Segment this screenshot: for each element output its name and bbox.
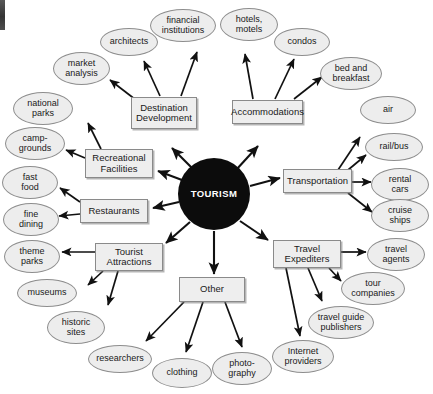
- leaf-node-researchers[interactable]: researchers: [88, 345, 152, 373]
- leaf-node-historic-sites[interactable]: historicsites: [47, 311, 105, 344]
- cruise-ships-label-line1: cruise: [388, 205, 412, 215]
- arrow-transportation-to-air: [338, 137, 360, 170]
- leaf-node-air[interactable]: air: [360, 96, 416, 124]
- clothing-label-line1: clothing: [166, 367, 197, 377]
- arrow-hub-to-tourist-attractions: [166, 222, 190, 243]
- arrow-other-to-clothing: [186, 302, 203, 352]
- leaf-node-photography[interactable]: photo-graphy: [212, 352, 272, 385]
- photography-label-line1: photo-: [229, 358, 255, 368]
- leaf-node-financial-institutions[interactable]: financialinstitutions: [150, 9, 216, 42]
- hotels-motels-label-line2: motels: [236, 24, 263, 34]
- financial-institutions-label-line2: institutions: [162, 25, 205, 35]
- hub-label: TOURISM: [191, 189, 237, 199]
- category-box-restaurants[interactable]: Restaurants: [80, 199, 148, 223]
- leaf-node-national-parks[interactable]: nationalparks: [13, 92, 73, 125]
- leaf-node-cruise-ships[interactable]: cruiseships: [371, 199, 429, 232]
- leaf-node-bed-and-breakfast[interactable]: bed andbreakfast: [320, 57, 382, 90]
- fast-food-label-line1: fast: [23, 172, 38, 182]
- arrow-travel-expediters-to-internet-providers: [286, 268, 300, 336]
- leaf-node-travel-guide-publishers[interactable]: travel guidepublishers: [308, 306, 374, 339]
- internet-providers-label-line1: Internet: [288, 346, 319, 356]
- arrow-hub-to-recreational-facilities: [158, 171, 182, 180]
- hub-node-tourism[interactable]: TOURISM: [178, 158, 250, 230]
- leaf-node-clothing[interactable]: clothing: [152, 358, 212, 388]
- arrow-restaurants-to-fine-dining: [59, 214, 80, 216]
- arrow-restaurants-to-fast-food: [60, 188, 80, 202]
- category-box-recreational-facilities[interactable]: RecreationalFacilities: [85, 149, 153, 178]
- category-box-travel-expediters[interactable]: TravelExpediters: [273, 240, 341, 268]
- leaf-node-internet-providers[interactable]: Internetproviders: [272, 340, 334, 373]
- hotels-motels-label-line1: hotels,: [236, 14, 263, 24]
- leaf-node-rail-bus[interactable]: rail/bus: [365, 133, 423, 161]
- arrow-accommodations-to-hotels-motels: [245, 54, 253, 99]
- arrow-travel-expediters-to-travel-guide-publishers: [308, 268, 322, 301]
- travel-expediters-label-line2: Expediters: [285, 253, 330, 264]
- fast-food-label-line2: food: [21, 182, 39, 192]
- leaf-node-market-analysis[interactable]: marketanalysis: [53, 52, 110, 85]
- category-box-destination-development[interactable]: DestinationDevelopment: [131, 97, 197, 129]
- tour-companies-label-line2: companies: [351, 288, 395, 298]
- rail-bus-label-line1: rail/bus: [379, 141, 408, 151]
- fine-dining-label-line2: dining: [19, 219, 43, 229]
- restaurants-label-line1: Restaurants: [88, 205, 139, 216]
- leaf-node-hotels-motels[interactable]: hotels,motels: [220, 8, 278, 41]
- leaf-node-fast-food[interactable]: fastfood: [2, 166, 58, 199]
- rental-cars-label-line2: cars: [391, 184, 408, 194]
- arrow-transportation-to-rail-bus: [348, 155, 366, 170]
- museums-label-line1: museums: [27, 287, 66, 297]
- bed-and-breakfast-label-line1: bed and: [335, 63, 368, 73]
- category-box-transportation[interactable]: Transportation: [283, 169, 352, 193]
- leaf-node-rental-cars[interactable]: rentalcars: [371, 168, 429, 201]
- accommodations-label-line1: Accommodations: [231, 106, 304, 117]
- national-parks-label-line1: national: [27, 98, 59, 108]
- travel-agents-label-line1: travel: [385, 244, 407, 254]
- leaf-node-theme-parks[interactable]: themeparks: [4, 240, 60, 273]
- arrow-travel-expediters-to-tour-companies: [329, 268, 341, 281]
- architects-label-line1: architects: [110, 36, 149, 46]
- arrow-transportation-to-cruise-ships: [348, 193, 372, 212]
- category-box-tourist-attractions[interactable]: TouristAttractions: [95, 243, 163, 271]
- tour-companies-label-line1: tour: [365, 278, 381, 288]
- condos-label-line1: condos: [287, 36, 316, 46]
- tourist-attractions-label-line2: Attractions: [107, 256, 152, 267]
- category-box-other[interactable]: Other: [179, 277, 245, 302]
- internet-providers-label-line2: providers: [284, 356, 321, 366]
- travel-guide-publishers-label-line1: travel guide: [318, 312, 365, 322]
- arrow-destination-development-to-financial-institutions: [181, 52, 197, 96]
- arrow-hub-to-restaurants: [153, 202, 179, 208]
- recreational-facilities-label-line2: Facilities: [101, 163, 138, 174]
- leaf-node-condos[interactable]: condos: [274, 28, 330, 56]
- arrow-accommodations-to-bed-and-breakfast: [294, 77, 322, 99]
- arrow-hub-to-accommodations: [236, 146, 258, 170]
- market-analysis-label-line1: market: [68, 58, 96, 68]
- leaf-node-museums[interactable]: museums: [17, 279, 77, 307]
- leaf-node-architects[interactable]: architects: [100, 28, 158, 56]
- transportation-label-line1: Transportation: [287, 175, 348, 186]
- cruise-ships-label-line2: ships: [389, 215, 410, 225]
- arrow-other-to-researchers: [146, 302, 184, 341]
- travel-agents-label-line2: agents: [382, 254, 409, 264]
- historic-sites-label-line2: sites: [67, 327, 86, 337]
- financial-institutions-label-line1: financial: [166, 15, 199, 25]
- arrow-tourist-attractions-to-historic-sites: [108, 271, 118, 305]
- travel-guide-publishers-label-line2: publishers: [320, 322, 361, 332]
- researchers-label-line1: researchers: [96, 353, 144, 363]
- destination-development-label-line2: Development: [136, 112, 192, 123]
- other-label-line1: Other: [200, 283, 224, 294]
- national-parks-label-line2: parks: [32, 108, 54, 118]
- leaf-node-fine-dining[interactable]: finedining: [3, 203, 59, 236]
- fine-dining-label-line1: fine: [24, 209, 39, 219]
- category-box-accommodations[interactable]: Accommodations: [232, 100, 303, 124]
- leaf-node-tour-companies[interactable]: tourcompanies: [341, 272, 405, 305]
- leaf-node-travel-agents[interactable]: travelagents: [367, 238, 425, 271]
- arrow-recreational-facilities-to-camp-grounds: [66, 150, 85, 158]
- arrow-hub-to-travel-expediters: [240, 221, 268, 240]
- bed-and-breakfast-label-line2: breakfast: [332, 73, 369, 83]
- arrow-hub-to-transportation: [250, 178, 280, 186]
- concept-map-diagram: TOURISMDestinationDevelopmentAccommodati…: [0, 0, 433, 394]
- photography-label-line2: graphy: [228, 368, 256, 378]
- market-analysis-label-line2: analysis: [65, 68, 98, 78]
- theme-parks-label-line2: parks: [21, 256, 43, 266]
- camp-grounds-label-line1: camp-: [22, 133, 47, 143]
- leaf-node-camp-grounds[interactable]: camp-grounds: [5, 127, 65, 160]
